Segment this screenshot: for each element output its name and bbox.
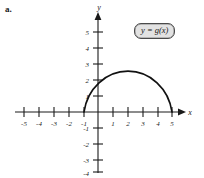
curve-label-badge: y = g(x) [134, 23, 175, 39]
x-tick-label: 2 [126, 120, 130, 128]
y-axis-arrow-icon [95, 12, 102, 20]
figure-container: a. [0, 0, 204, 178]
y-tick-label: 5 [86, 29, 90, 37]
y-tick-label: 3 [85, 61, 90, 69]
y-tick-label: -4 [83, 170, 89, 178]
y-tick-label: -3 [83, 157, 89, 165]
y-tick-label: -1 [83, 125, 89, 133]
y-axis-label: y [96, 3, 101, 12]
x-tick-label: -5 [21, 120, 27, 128]
x-tick-label: 3 [140, 120, 145, 128]
y-tick-label: 2 [86, 77, 90, 85]
function-curve [84, 71, 172, 112]
x-tick-label: -3 [51, 120, 57, 128]
x-tick-label: 1 [111, 120, 115, 128]
x-tick-label: -2 [66, 120, 72, 128]
x-tick-label: -4 [36, 120, 42, 128]
y-tick-label: -2 [83, 141, 89, 149]
y-tick-label: 4 [86, 45, 90, 53]
x-tick-label: 4 [156, 120, 160, 128]
x-axis-label: x [187, 108, 192, 117]
x-tick-label: 5 [170, 120, 174, 128]
x-axis-arrow-icon [178, 109, 186, 116]
